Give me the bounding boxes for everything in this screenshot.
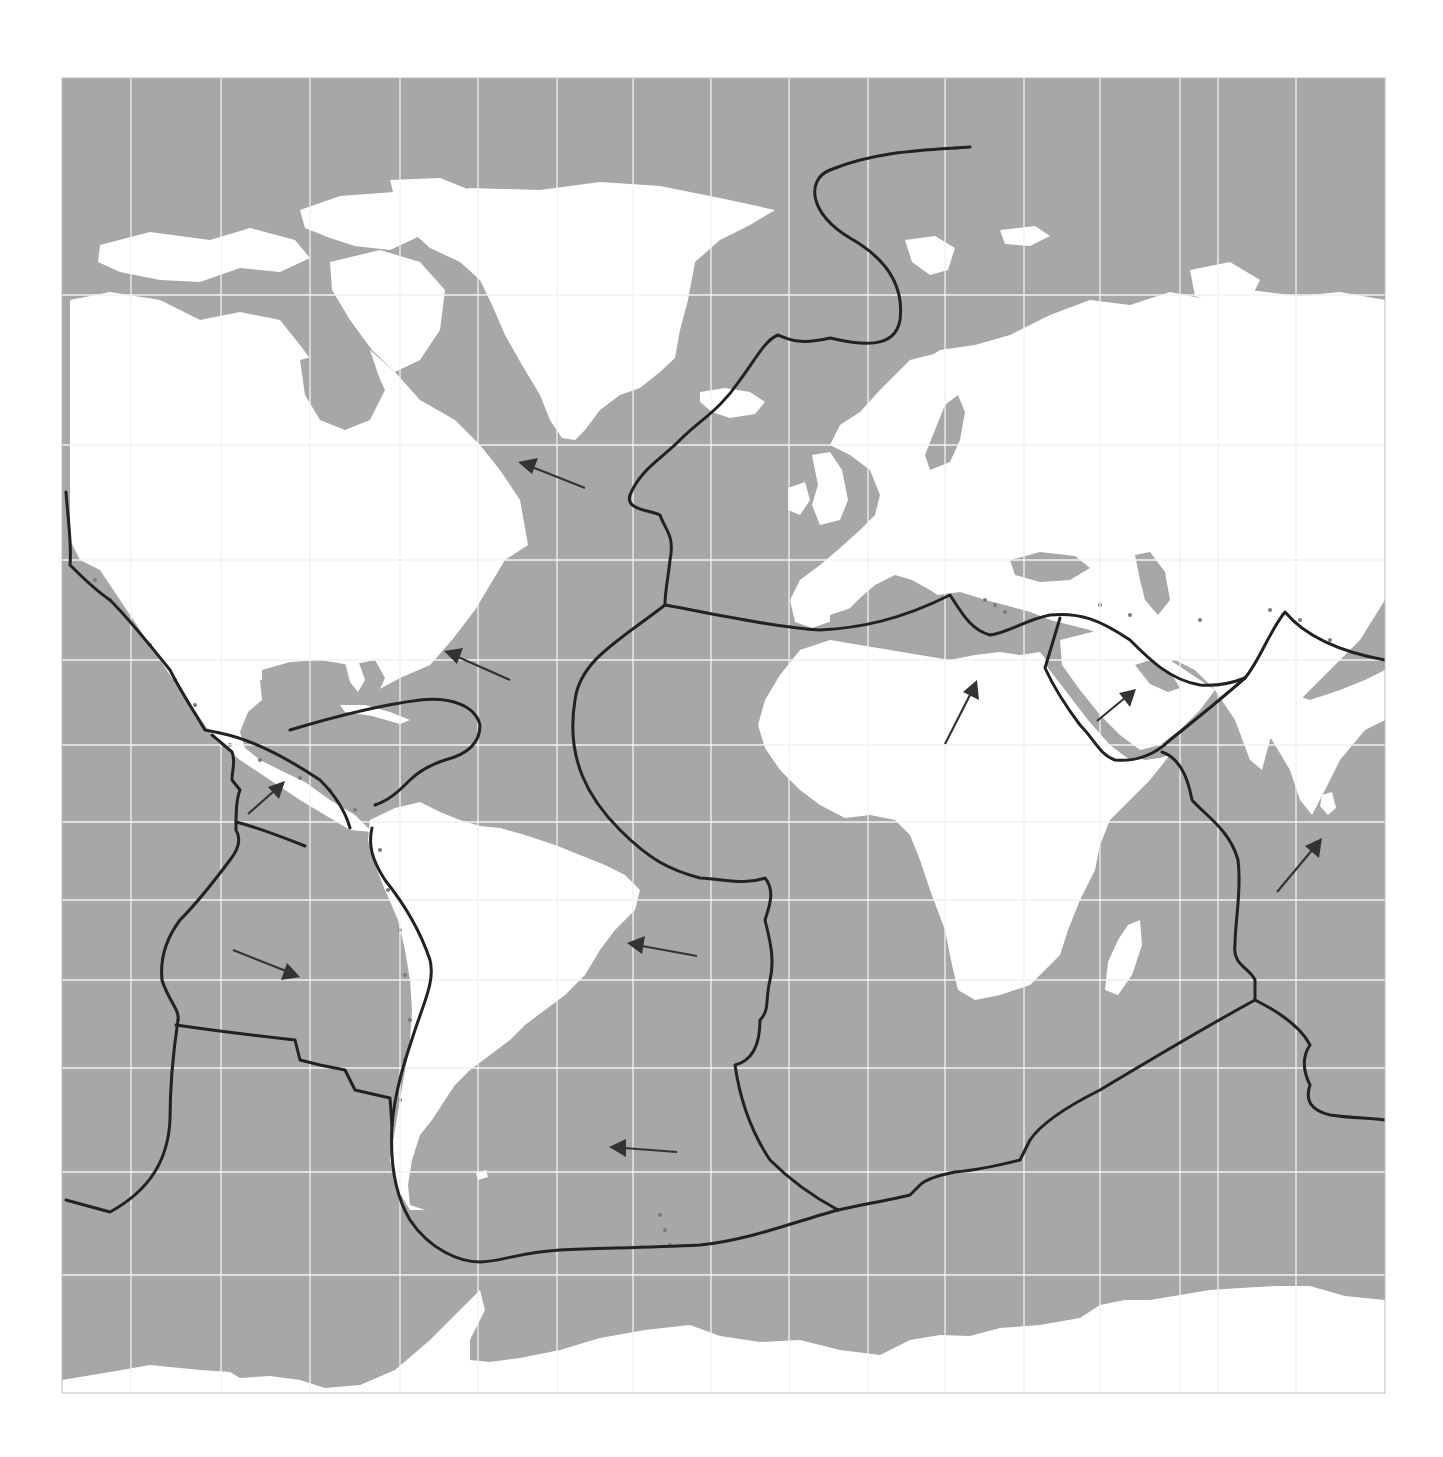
ocean-background — [62, 78, 1385, 1393]
plate-tectonics-map — [0, 0, 1443, 1457]
